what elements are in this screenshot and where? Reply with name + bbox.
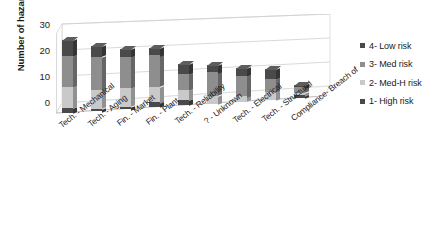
bar-segment [178,74,189,90]
bar-segment [91,46,102,56]
legend-item: 4- Low risk [360,40,446,51]
bar-segment [265,69,276,79]
bar-segment-face [265,69,276,79]
bar-segment [120,49,131,57]
bar-segment-side [160,86,164,103]
bar-segment-face [120,49,131,57]
bar-segment [120,57,131,88]
bar-segment-face [91,46,102,56]
legend-swatch-icon [360,43,365,48]
bar-segment-face [149,55,160,86]
bar-segment-face [178,90,189,100]
legend-label: 2- Med-H risk [369,78,422,88]
bar-segment-side [160,55,164,87]
bar-segment [62,56,73,87]
bar-column [62,0,73,113]
bar-segment-side [189,74,193,91]
bar-segment [149,55,160,86]
bar-column [178,0,189,105]
legend-item: 3- Med risk [360,59,446,70]
y-axis-title: Number of hazards [15,0,29,79]
bar-segment-side [73,40,77,57]
bar-segment-side [247,75,251,97]
y-tick-10: 10 [28,71,50,82]
legend-label: 1- High risk [369,96,413,106]
legend-item: 1- High risk [360,96,446,107]
legend-label: 3- Med risk [369,59,412,69]
bar-segment [62,40,73,56]
bar-segment-face [91,57,102,91]
bar-segment-face [62,87,73,108]
bar-segment-side [189,63,193,75]
bar-segment-side [102,45,106,57]
bar-segment [62,87,73,108]
chart-legend: 4- Low risk3- Med risk2- Med-H risk1- Hi… [360,40,446,114]
legend-swatch-icon [360,62,365,67]
legend-swatch-icon [360,99,365,104]
bar-column [149,0,160,107]
y-tick-20: 20 [28,45,50,56]
bar-segment [178,90,189,100]
legend-item: 2- Med-H risk [360,77,446,88]
bar-segment-side [73,55,77,87]
bar-column [236,0,247,102]
stacked-bar-chart: Number of hazards 30 20 10 0 Tech. - Mec… [0,0,447,233]
bar-segment-face [178,74,189,90]
bar-segment-side [276,68,280,80]
y-tick-0: 0 [28,97,50,108]
bar-segment-face [120,57,131,88]
bar-segment-face [62,40,73,56]
bar-segment-side [131,57,135,89]
bar-segment-face [62,56,73,87]
y-tick-30: 30 [28,19,50,30]
bar-segment-face [178,64,189,74]
legend-swatch-icon [360,80,365,85]
bar-segment [91,57,102,91]
bar-segment [178,64,189,74]
legend-label: 4- Low risk [369,41,411,51]
bar-segment-side [189,89,193,101]
